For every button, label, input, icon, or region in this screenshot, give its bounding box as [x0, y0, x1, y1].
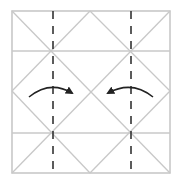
fold-diagram: [0, 0, 178, 182]
